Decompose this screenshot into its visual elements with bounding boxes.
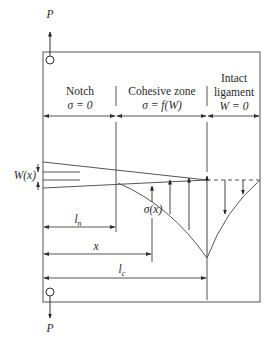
zone-ligament-title-1: Intact bbox=[208, 72, 260, 85]
zone-cohesive-condition: σ = f(W) bbox=[118, 99, 206, 112]
critical-length-label: lc bbox=[112, 263, 132, 280]
load-label-top: P bbox=[44, 8, 56, 21]
notch-length-subscript: n bbox=[78, 219, 82, 228]
zone-cohesive-title: Cohesive zone bbox=[118, 85, 206, 98]
zone-ligament-title-2: ligament bbox=[208, 86, 260, 99]
position-label: x bbox=[88, 240, 104, 253]
zone-notch-condition: σ = 0 bbox=[55, 99, 105, 112]
bottom-pin bbox=[46, 288, 54, 296]
zone-notch-title: Notch bbox=[55, 85, 105, 98]
notch-length-label: ln bbox=[68, 213, 88, 230]
top-pin bbox=[46, 56, 54, 64]
zone-ligament-condition: W = 0 bbox=[208, 100, 260, 113]
critical-length-subscript: c bbox=[122, 269, 126, 278]
opening-label: W(x) bbox=[8, 169, 36, 182]
stress-label: σ(x) bbox=[136, 203, 170, 216]
load-label-bottom: P bbox=[44, 322, 56, 335]
cohesive-crack-diagram bbox=[0, 0, 274, 351]
